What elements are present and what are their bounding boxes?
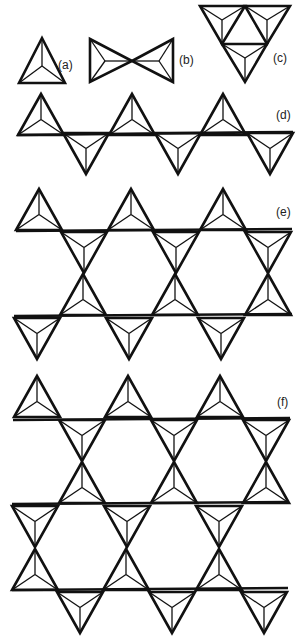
label-b: (b) xyxy=(179,54,194,66)
label-a: (a) xyxy=(58,59,73,71)
panel-b-corner-sharing-pair xyxy=(90,39,173,82)
tetrahedra-diagram xyxy=(0,0,303,644)
panel-f-sheet xyxy=(12,376,290,633)
label-e: (e) xyxy=(276,206,291,218)
panel-d-single-chain xyxy=(17,94,293,174)
label-d: (d) xyxy=(276,109,291,121)
panel-e-double-chain xyxy=(14,189,292,359)
label-f: (f) xyxy=(277,396,288,408)
panel-c-tetrahedra-cluster xyxy=(200,6,290,82)
label-c: (c) xyxy=(273,52,287,64)
